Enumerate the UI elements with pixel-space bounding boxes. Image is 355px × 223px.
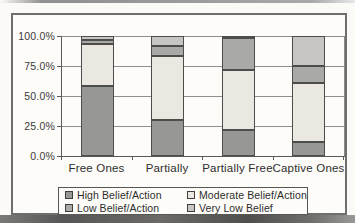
legend-item: High Belief/Action — [65, 189, 187, 201]
y-axis-tick — [57, 36, 61, 37]
legend-swatch — [187, 204, 195, 212]
bar-segment — [151, 46, 184, 57]
legend-item: Moderate Belief/Action — [187, 189, 307, 201]
category-label: Partially Free — [202, 162, 273, 176]
bar-segment — [151, 120, 184, 156]
y-axis-label: 25.0% — [13, 120, 55, 132]
y-axis-tick — [57, 66, 61, 67]
y-axis-tick — [57, 96, 61, 97]
legend-swatch — [65, 204, 73, 212]
legend-label: Moderate Belief/Action — [199, 189, 307, 201]
chart-frame: 100.0%75.0%50.0%25.0%0.0% Free OnesParti… — [11, 13, 347, 215]
bar-segment — [292, 36, 325, 66]
bar-segment — [81, 44, 114, 86]
legend-label: High Belief/Action — [77, 189, 162, 201]
bar-segment — [81, 40, 114, 45]
legend-item: Very Low Belief — [187, 202, 307, 214]
x-axis-tick — [343, 157, 344, 160]
bar-segment — [222, 38, 255, 69]
legend-swatch — [65, 191, 73, 199]
scan-artifact-bottom — [0, 215, 355, 223]
category-label: Free Ones — [61, 162, 132, 176]
legend-box: High Belief/ActionModerate Belief/Action… — [58, 187, 308, 215]
y-axis-tick — [57, 126, 61, 127]
y-axis-label: 50.0% — [13, 90, 55, 102]
x-axis-tick — [202, 157, 203, 160]
x-axis-tick — [132, 157, 133, 160]
category-label: Partially — [132, 162, 203, 176]
y-axis-label: 0.0% — [13, 150, 55, 162]
bar-segment — [292, 66, 325, 83]
bar-segment — [292, 83, 325, 142]
bar-segment — [292, 142, 325, 156]
scan-artifact-top — [0, 0, 355, 3]
bar-segment — [222, 36, 255, 38]
bar-segment — [81, 36, 114, 40]
x-axis-tick — [273, 157, 274, 160]
legend-label: Low Belief/Action — [77, 202, 159, 214]
y-axis-label: 75.0% — [13, 60, 55, 72]
y-axis-label: 100.0% — [13, 30, 55, 42]
legend-label: Very Low Belief — [199, 202, 273, 214]
legend-item: Low Belief/Action — [65, 202, 187, 214]
bar-segment — [222, 130, 255, 156]
bar-segment — [81, 86, 114, 156]
x-axis-tick — [61, 157, 62, 160]
bar-segment — [151, 36, 184, 46]
legend-swatch — [187, 191, 195, 199]
plot-area — [61, 36, 345, 157]
bar-segment — [222, 70, 255, 130]
bar-segment — [151, 56, 184, 120]
category-label: Captive Ones — [273, 162, 344, 176]
